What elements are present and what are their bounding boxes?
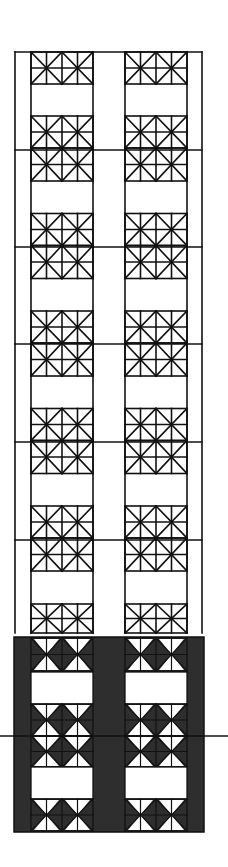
white-band	[125, 672, 187, 704]
white-band	[31, 767, 93, 799]
lattice-panel-drawing	[0, 0, 228, 867]
diagram-stage	[0, 0, 228, 867]
white-band	[31, 672, 93, 704]
white-band	[125, 767, 187, 799]
